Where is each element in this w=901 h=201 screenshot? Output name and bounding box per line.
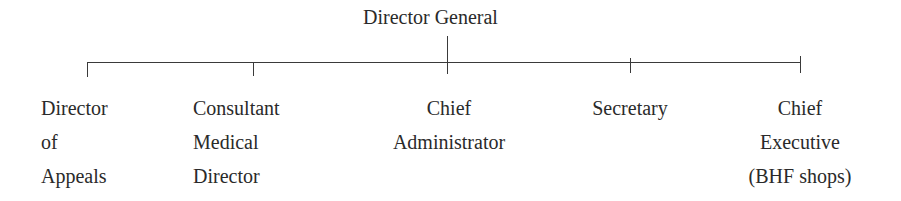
node-label-line: of — [41, 125, 108, 159]
node-label-line: Consultant — [193, 91, 280, 125]
connector-root-vertical — [447, 36, 448, 74]
connector-horizontal — [87, 62, 801, 63]
node-label: Director General — [363, 2, 498, 32]
node-chief-administrator: Chief Administrator — [393, 91, 505, 159]
connector-drop-5 — [800, 56, 801, 73]
connector-drop-4 — [630, 58, 631, 73]
node-label-line: Administrator — [393, 125, 505, 159]
node-label-line: Secretary — [592, 91, 668, 125]
node-label-line: Chief — [393, 91, 505, 125]
node-label-line: Medical — [193, 125, 280, 159]
node-label-line: Appeals — [41, 159, 108, 193]
node-label-line: Chief — [749, 91, 852, 125]
connector-drop-1 — [87, 62, 88, 77]
node-chief-executive-bhf-shops: Chief Executive (BHF shops) — [749, 91, 852, 193]
node-label-line: Director — [193, 159, 280, 193]
node-consultant-medical-director: Consultant Medical Director — [193, 91, 280, 193]
node-label-line: Executive — [749, 125, 852, 159]
node-director-of-appeals: Director of Appeals — [41, 91, 108, 193]
node-label-line: (BHF shops) — [749, 159, 852, 193]
node-secretary: Secretary — [592, 91, 668, 125]
node-label-line: Director — [41, 91, 108, 125]
node-director-general: Director General — [363, 2, 498, 32]
connector-drop-2 — [253, 62, 254, 76]
